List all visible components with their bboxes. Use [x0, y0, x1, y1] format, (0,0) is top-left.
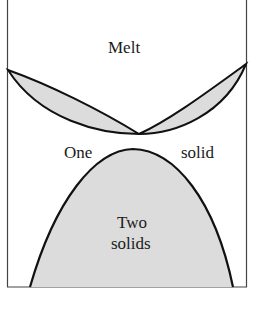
left-two-phase-lens: [8, 70, 139, 134]
label-solids: solids: [111, 235, 151, 252]
label-two: Two: [117, 214, 147, 231]
label-melt: Melt: [108, 39, 140, 56]
label-one: One: [64, 144, 92, 161]
label-solid: solid: [181, 144, 214, 161]
right-two-phase-lens: [139, 64, 246, 134]
